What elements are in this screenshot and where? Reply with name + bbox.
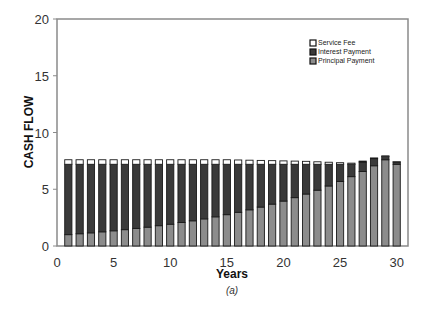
bar-segment-principal-payment bbox=[393, 164, 400, 246]
bar-segment-interest-payment bbox=[348, 164, 355, 176]
bar-segment-interest-payment bbox=[291, 164, 298, 197]
bar-year-15 bbox=[223, 160, 230, 246]
legend-swatch bbox=[310, 49, 316, 55]
bar-year-29 bbox=[382, 156, 389, 246]
bar-segment-principal-payment bbox=[110, 231, 117, 246]
bar-year-1 bbox=[65, 160, 72, 246]
legend-label: Interest Payment bbox=[318, 48, 371, 56]
bar-segment-principal-payment bbox=[314, 190, 321, 246]
legend-swatch bbox=[310, 58, 316, 64]
bar-segment-interest-payment bbox=[325, 164, 332, 186]
bar-segment-interest-payment bbox=[99, 164, 106, 232]
bar-segment-service-fee bbox=[280, 161, 287, 164]
x-tick-label: 10 bbox=[163, 255, 177, 270]
bar-segment-principal-payment bbox=[257, 207, 264, 246]
bar-segment-principal-payment bbox=[280, 201, 287, 246]
bar-year-19 bbox=[269, 161, 276, 246]
bar-segment-service-fee bbox=[65, 160, 72, 165]
y-axis-ticks: 05101520 bbox=[35, 12, 57, 254]
bar-segment-service-fee bbox=[223, 160, 230, 165]
bar-segment-interest-payment bbox=[280, 164, 287, 201]
bar-segment-interest-payment bbox=[382, 156, 389, 159]
bar-segment-principal-payment bbox=[212, 217, 219, 246]
bar-segment-service-fee bbox=[302, 161, 309, 164]
bar-year-21 bbox=[291, 161, 298, 246]
bar-segment-principal-payment bbox=[302, 194, 309, 246]
bar-segment-service-fee bbox=[257, 160, 264, 164]
bar-segment-interest-payment bbox=[246, 164, 253, 210]
bar-segment-service-fee bbox=[201, 160, 208, 165]
legend-swatch bbox=[310, 40, 316, 46]
bar-segment-interest-payment bbox=[178, 164, 185, 222]
x-tick-label: 20 bbox=[276, 255, 290, 270]
bar-segment-service-fee bbox=[178, 160, 185, 165]
bar-segment-interest-payment bbox=[110, 164, 117, 231]
x-tick-label: 25 bbox=[333, 255, 347, 270]
bar-segment-interest-payment bbox=[269, 164, 276, 204]
bar-segment-service-fee bbox=[269, 161, 276, 165]
bar-year-12 bbox=[189, 160, 196, 246]
bar-year-18 bbox=[257, 160, 264, 246]
bar-segment-interest-payment bbox=[167, 164, 174, 224]
bar-year-11 bbox=[178, 160, 185, 246]
x-tick-label: 5 bbox=[110, 255, 117, 270]
bar-segment-service-fee bbox=[359, 161, 366, 162]
bar-year-10 bbox=[167, 160, 174, 246]
y-tick-label: 0 bbox=[42, 239, 49, 254]
bar-segment-principal-payment bbox=[178, 223, 185, 246]
bar-segment-service-fee bbox=[155, 160, 162, 165]
bar-segment-principal-payment bbox=[370, 166, 377, 246]
bar-segment-principal-payment bbox=[99, 232, 106, 246]
bar-segment-service-fee bbox=[144, 160, 151, 165]
bar-segment-principal-payment bbox=[246, 210, 253, 246]
bar-year-8 bbox=[144, 160, 151, 246]
bar-year-14 bbox=[212, 160, 219, 246]
bar-segment-principal-payment bbox=[325, 186, 332, 246]
bar-segment-interest-payment bbox=[257, 164, 264, 207]
bar-segment-principal-payment bbox=[189, 221, 196, 246]
bar-segment-principal-payment bbox=[155, 226, 162, 246]
bar-segment-interest-payment bbox=[314, 164, 321, 190]
y-tick-label: 5 bbox=[42, 182, 49, 197]
bar-segment-interest-payment bbox=[76, 164, 83, 233]
bar-segment-interest-payment bbox=[87, 164, 94, 233]
bar-segment-service-fee bbox=[246, 160, 253, 164]
bar-segment-service-fee bbox=[99, 160, 106, 165]
bar-year-26 bbox=[348, 163, 355, 246]
legend-label: Principal Payment bbox=[318, 57, 374, 65]
bar-year-30 bbox=[393, 162, 400, 246]
bar-segment-service-fee bbox=[189, 160, 196, 165]
y-tick-label: 15 bbox=[35, 69, 49, 84]
bar-segment-interest-payment bbox=[212, 164, 219, 217]
bar-segment-interest-payment bbox=[336, 164, 343, 181]
bar-segment-interest-payment bbox=[189, 164, 196, 221]
y-axis-title: CASH FLOW bbox=[22, 95, 36, 168]
bar-segment-interest-payment bbox=[223, 164, 230, 214]
x-tick-label: 30 bbox=[389, 255, 403, 270]
bar-segment-service-fee bbox=[325, 162, 332, 164]
bar-segment-interest-payment bbox=[235, 164, 242, 212]
bar-segment-service-fee bbox=[370, 158, 377, 159]
bar-segment-service-fee bbox=[314, 162, 321, 164]
bar-segment-principal-payment bbox=[167, 224, 174, 246]
bar-segment-principal-payment bbox=[133, 228, 140, 246]
bar-year-3 bbox=[87, 160, 94, 246]
x-tick-label: 0 bbox=[53, 255, 60, 270]
bar-segment-service-fee bbox=[348, 163, 355, 164]
bar-year-23 bbox=[314, 162, 321, 246]
bar-year-27 bbox=[359, 161, 366, 246]
bar-segment-service-fee bbox=[110, 160, 117, 165]
bar-segment-principal-payment bbox=[382, 160, 389, 246]
bar-segment-principal-payment bbox=[223, 215, 230, 246]
bar-segment-interest-payment bbox=[133, 164, 140, 228]
bar-segment-service-fee bbox=[167, 160, 174, 165]
bar-segment-principal-payment bbox=[336, 181, 343, 246]
bar-segment-service-fee bbox=[336, 163, 343, 165]
bar-year-28 bbox=[370, 158, 377, 246]
bar-segment-interest-payment bbox=[370, 159, 377, 166]
bar-segment-service-fee bbox=[76, 160, 83, 165]
bar-year-6 bbox=[121, 160, 128, 246]
bar-year-5 bbox=[110, 160, 117, 246]
bar-year-9 bbox=[155, 160, 162, 246]
bar-segment-interest-payment bbox=[359, 162, 366, 171]
